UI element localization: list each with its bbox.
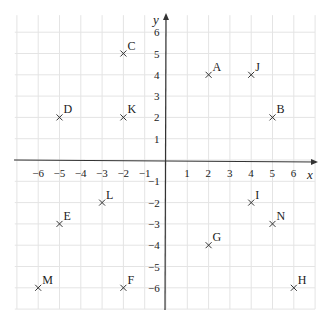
y-tick-label: 1 bbox=[154, 133, 160, 145]
y-tick-label: 2 bbox=[154, 111, 160, 123]
y-tick-label: −5 bbox=[148, 261, 160, 273]
x-tick-label: −3 bbox=[96, 167, 108, 179]
y-axis-arrow-icon bbox=[163, 13, 169, 20]
point-label: L bbox=[106, 188, 113, 202]
x-axis-label: x bbox=[306, 167, 313, 182]
y-tick-label: −3 bbox=[148, 218, 160, 230]
coordinate-plane: −6−5−4−3−2−1123456 −6−5−4−3−2−1123456 AB… bbox=[0, 0, 333, 329]
y-tick-label: 4 bbox=[154, 69, 160, 81]
x-tick-label: −4 bbox=[75, 167, 87, 179]
point-label: C bbox=[127, 39, 135, 53]
y-tick-label: 5 bbox=[154, 48, 160, 60]
x-tick-label: 3 bbox=[227, 167, 233, 179]
x-tick-label: 4 bbox=[248, 167, 254, 179]
x-tick-label: −6 bbox=[32, 167, 44, 179]
plotted-points: ABCDEFGHIJKLMN bbox=[35, 39, 307, 291]
point-label: I bbox=[255, 188, 259, 202]
x-tick-labels: −6−5−4−3−2−1123456 bbox=[32, 167, 297, 179]
x-tick-label: 5 bbox=[270, 167, 276, 179]
y-tick-label: −2 bbox=[148, 197, 160, 209]
x-tick-label: 2 bbox=[206, 167, 212, 179]
point-label: E bbox=[64, 209, 71, 223]
y-tick-label: −1 bbox=[148, 175, 160, 187]
y-tick-label: 3 bbox=[154, 90, 160, 102]
point-label: H bbox=[298, 273, 307, 287]
point-label: J bbox=[255, 60, 260, 74]
point-label: D bbox=[64, 102, 73, 116]
x-tick-label: 1 bbox=[184, 167, 190, 179]
y-axis-label: y bbox=[151, 12, 159, 27]
x-tick-label: 6 bbox=[291, 167, 297, 179]
point-label: B bbox=[277, 102, 285, 116]
point-label: K bbox=[127, 102, 136, 116]
x-tick-label: −2 bbox=[117, 167, 129, 179]
point-label: F bbox=[127, 273, 134, 287]
y-tick-label: −4 bbox=[148, 239, 160, 251]
x-tick-label: −5 bbox=[54, 167, 66, 179]
point-label: M bbox=[42, 273, 53, 287]
y-tick-label: −6 bbox=[148, 282, 160, 294]
point-label: A bbox=[213, 60, 222, 74]
point-label: G bbox=[213, 230, 222, 244]
point-label: N bbox=[277, 209, 286, 223]
y-tick-label: 6 bbox=[154, 26, 160, 38]
